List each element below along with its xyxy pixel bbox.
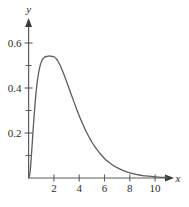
x-axis-label: x [175, 172, 181, 184]
y-axis-tick-labels: 0.20.40.6 [8, 37, 22, 139]
x-tick-label: 4 [76, 182, 82, 194]
chart-figure: 246810 0.20.40.6 x y [0, 0, 189, 207]
x-tick-label: 10 [150, 182, 162, 194]
y-tick-label: 0.6 [8, 37, 22, 49]
density-curve-path [29, 56, 168, 178]
y-tick-label: 0.4 [8, 82, 22, 94]
y-axis-label: y [25, 3, 31, 15]
x-tick-label: 6 [102, 182, 108, 194]
density-curve-plot: 246810 0.20.40.6 x y [0, 0, 189, 207]
x-tick-label: 2 [51, 182, 57, 194]
y-axis-arrowhead [25, 18, 32, 27]
x-axis-tick-labels: 246810 [51, 182, 161, 194]
y-tick-label: 0.2 [8, 127, 22, 139]
x-tick-label: 8 [127, 182, 133, 194]
axis-lines [25, 18, 174, 181]
